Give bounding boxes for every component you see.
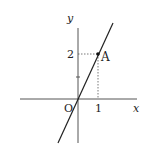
y-axis-label: y — [66, 12, 74, 25]
x-axis-label: x — [133, 102, 140, 115]
line-series — [58, 23, 113, 143]
origin-label: O — [64, 102, 73, 115]
graph-canvas: y 2 A O 1 x — [0, 0, 149, 154]
point-a-marker — [96, 52, 100, 56]
coordinate-graph: y 2 A O 1 x — [0, 0, 149, 154]
y-tick-label-2: 2 — [67, 48, 74, 61]
point-a-label: A — [100, 50, 110, 64]
x-tick-label-1: 1 — [95, 102, 102, 115]
